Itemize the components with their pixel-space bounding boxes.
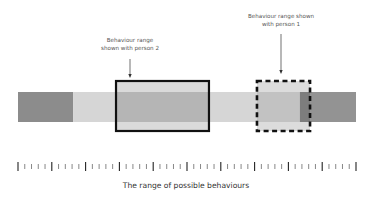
- person1-arrowhead-icon: [279, 70, 282, 74]
- person2-arrowhead-icon: [128, 74, 131, 78]
- person2-label-line1: Behaviour range: [107, 37, 154, 44]
- bar-segment-mid-person2: [116, 92, 209, 122]
- bar-segment-dark-right: [310, 92, 356, 122]
- person1-label-line1: Behaviour range shown: [248, 13, 315, 20]
- bar-segment-darker-stripe: [300, 92, 310, 122]
- bar-segment-dark-left: [18, 92, 73, 122]
- behaviour-range-diagram: Behaviour range shown with person 2 Beha…: [0, 0, 371, 200]
- ruler-caption: The range of possible behaviours: [122, 181, 249, 190]
- bar-segment-mid-person1: [257, 92, 300, 122]
- person1-label-line2: with person 1: [262, 21, 301, 28]
- bar-segment-light: [73, 92, 116, 122]
- behaviour-ruler: [18, 162, 356, 171]
- behaviour-bar: [18, 81, 356, 131]
- person2-label-line2: shown with person 2: [101, 45, 159, 52]
- bar-segment-light-2: [209, 92, 257, 122]
